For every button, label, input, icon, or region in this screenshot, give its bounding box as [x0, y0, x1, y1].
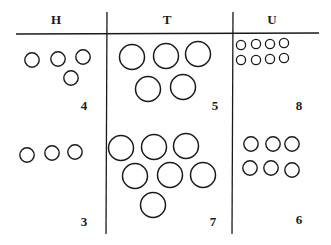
counter-circle — [45, 146, 59, 160]
counter-circle — [141, 193, 166, 218]
counter-circle — [265, 39, 274, 48]
cell-count: 4 — [81, 98, 88, 113]
counter-circle — [154, 44, 179, 69]
column-header-h: H — [51, 12, 61, 27]
counter-circle — [64, 71, 78, 85]
counter-circle — [142, 135, 167, 160]
counter-circle — [191, 163, 216, 188]
counter-circle — [251, 39, 260, 48]
column-divider-h-t — [106, 12, 107, 234]
counter-circle — [285, 137, 299, 151]
column-divider-t-u — [232, 12, 233, 234]
counter-circle — [123, 164, 148, 189]
cell-h-row1: 4 — [25, 50, 90, 113]
counter-circle — [171, 75, 196, 100]
counter-circle — [51, 52, 65, 66]
counter-circle — [174, 134, 199, 159]
header-divider-line — [16, 33, 319, 34]
counter-circle — [244, 137, 258, 151]
counter-circle — [285, 163, 299, 177]
counter-circle — [279, 53, 288, 62]
counter-circle — [243, 161, 257, 175]
counter-circle — [186, 42, 211, 67]
column-header-u: U — [267, 12, 277, 27]
counter-circle — [25, 53, 39, 67]
cell-u-row1: 8 — [236, 38, 302, 113]
column-header-t: T — [163, 12, 172, 27]
cell-t-row2: 7 — [109, 134, 217, 230]
counter-circle — [120, 45, 145, 70]
counter-circle — [236, 40, 245, 49]
counter-circle — [68, 145, 82, 159]
cell-count: 8 — [296, 98, 303, 113]
counter-circle — [136, 77, 161, 102]
counter-circle — [76, 50, 90, 64]
cell-h-row2: 3 — [20, 145, 88, 229]
cell-count: 3 — [81, 214, 88, 229]
counter-circle — [20, 148, 34, 162]
cell-t-row1: 5 — [120, 42, 219, 114]
cell-count: 5 — [212, 98, 219, 113]
cell-u-row2: 6 — [243, 137, 303, 227]
counter-circle — [236, 55, 245, 64]
cell-count: 6 — [296, 212, 303, 227]
counter-circle — [109, 136, 134, 161]
counter-circle — [158, 163, 183, 188]
counter-circle — [266, 137, 280, 151]
cell-count: 7 — [210, 214, 217, 229]
place-value-diagram: H T U 4 5 8 3 — [0, 0, 331, 245]
counter-circle — [264, 161, 278, 175]
counter-circle — [265, 54, 274, 63]
counter-circle — [279, 38, 288, 47]
counter-circle — [251, 55, 260, 64]
